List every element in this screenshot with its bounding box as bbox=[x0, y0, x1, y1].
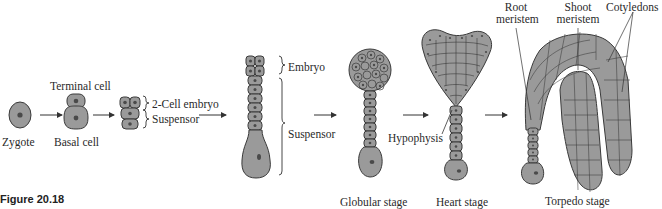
label-terminal-cell: Terminal cell bbox=[50, 80, 111, 92]
zygote-cell bbox=[9, 102, 31, 128]
brace-icon bbox=[279, 78, 285, 175]
diagram-artwork bbox=[0, 0, 662, 209]
label-basal-cell: Basal cell bbox=[54, 136, 99, 148]
label-hypophysis: Hypophysis bbox=[388, 132, 443, 144]
label-heart-stage: Heart stage bbox=[436, 196, 488, 208]
torpedo-stage bbox=[516, 12, 633, 192]
four-cell-stage bbox=[120, 97, 140, 129]
brace-icon bbox=[143, 96, 149, 110]
label-suspensor-early: Suspensor bbox=[152, 113, 199, 125]
label-embryo: Embryo bbox=[288, 61, 325, 73]
root-meristem-pointer bbox=[516, 28, 531, 120]
two-cell-stage bbox=[64, 94, 88, 129]
globular-stage bbox=[349, 49, 391, 177]
figure-number: Figure 20.18 bbox=[0, 193, 64, 205]
embryogenesis-figure: Zygote Terminal cell Basal cell 2-Cell e… bbox=[0, 0, 662, 209]
label-torpedo-stage: Torpedo stage bbox=[545, 195, 610, 207]
heart-stage bbox=[422, 30, 492, 180]
brace-icon bbox=[143, 110, 149, 128]
brace-icon bbox=[279, 56, 285, 74]
label-cotyledons: Cotyledons bbox=[606, 1, 658, 13]
label-shoot-meristem: Shoot meristem bbox=[552, 1, 604, 25]
label-root-meristem: Root meristem bbox=[496, 1, 536, 25]
label-zygote: Zygote bbox=[2, 136, 35, 148]
label-suspensor-late: Suspensor bbox=[288, 128, 335, 140]
octant-stage bbox=[242, 56, 271, 178]
label-globular-stage: Globular stage bbox=[340, 196, 407, 208]
label-two-cell-embryo: 2-Cell embryo bbox=[152, 98, 219, 110]
